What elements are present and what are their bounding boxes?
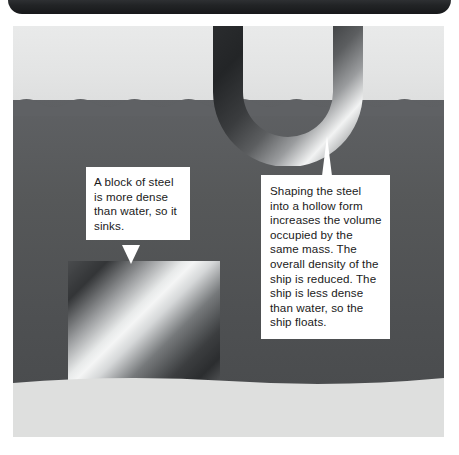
ship-hull-callout-text: Shaping the steel into a hollow form inc…: [270, 184, 383, 330]
hollow-steel-hull: [205, 26, 371, 166]
steel-block-callout: A block of steel is more dense than wate…: [86, 167, 190, 240]
top-rounded-bar: [8, 0, 451, 14]
callout-tail-ship-hull: [322, 136, 332, 176]
steel-block-callout-text: A block of steel is more dense than wate…: [94, 175, 183, 233]
ship-hull-callout: Shaping the steel into a hollow form inc…: [261, 175, 390, 339]
seabed: [13, 369, 444, 437]
buoyancy-diagram: A block of steel is more dense than wate…: [0, 0, 459, 455]
callout-tail-steel-block: [122, 245, 140, 264]
